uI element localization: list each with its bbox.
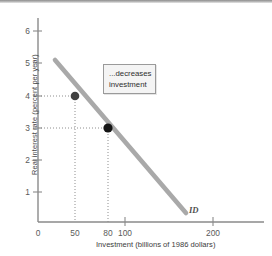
investment-demand-chart: Real interest rate (percent per year) 6 … <box>0 0 272 256</box>
y-tick-label-1: 1 <box>16 187 30 197</box>
x-tick-label-100: 100 <box>113 228 137 238</box>
x-tick-label-0: 0 <box>26 228 50 238</box>
y-tick-label-6: 6 <box>16 26 30 36</box>
y-tick-label-3: 3 <box>16 123 30 133</box>
x-axis-label: Investment (billions of 1986 dollars) <box>96 240 215 249</box>
curve-label-id: ID <box>189 205 199 215</box>
y-tick-label-4: 4 <box>16 91 30 101</box>
y-tick-label-5: 5 <box>16 58 30 68</box>
y-axis-label: Real interest rate (percent per year) <box>30 25 39 205</box>
callout-line-1: ...decreases <box>109 68 151 79</box>
x-tick-label-200: 200 <box>201 228 225 238</box>
decreases-investment-callout: ...decreases investment <box>103 64 156 94</box>
figure-page: Real interest rate (percent per year) 6 … <box>0 0 272 256</box>
x-tick-label-50: 50 <box>63 228 87 238</box>
data-point-80-3 <box>103 123 112 132</box>
chart-canvas <box>0 0 272 256</box>
guide-lines <box>38 96 108 222</box>
data-point-50-4 <box>71 92 80 101</box>
callout-line-2: investment <box>109 79 151 90</box>
y-tick-label-2: 2 <box>16 155 30 165</box>
